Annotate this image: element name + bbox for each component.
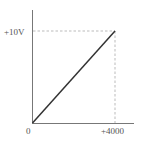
y-max-label: +10V xyxy=(4,27,25,37)
origin-label: 0 xyxy=(26,126,31,136)
line-chart: +10V 0 +4000 xyxy=(0,0,145,146)
data-line xyxy=(33,31,116,123)
x-max-label: +4000 xyxy=(101,126,125,136)
